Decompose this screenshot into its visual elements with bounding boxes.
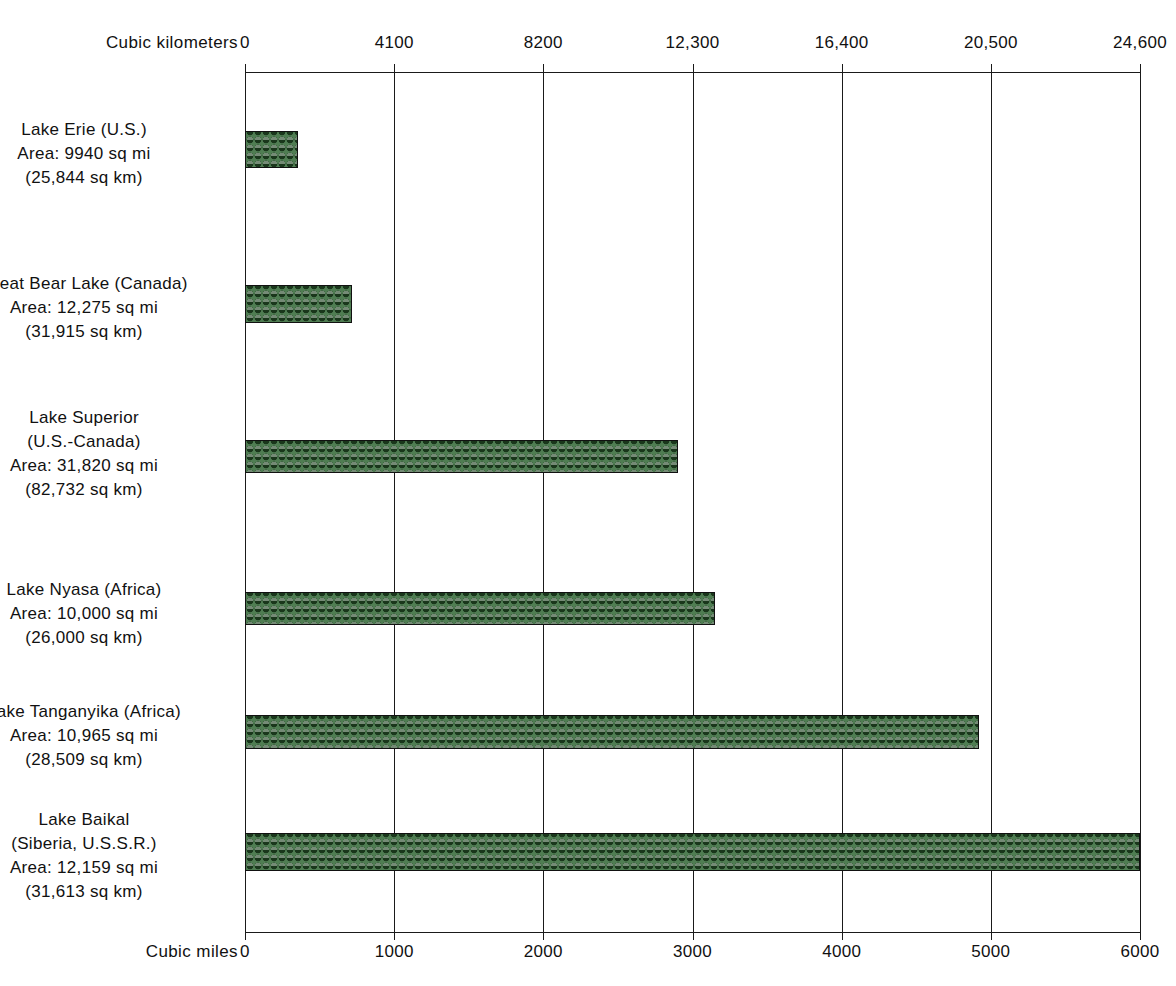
category-label-line: Area: 31,820 sq mi (0, 454, 234, 478)
top-axis-label: Cubic kilometers (106, 33, 238, 53)
bottom-tick-label: 4000 (822, 942, 861, 962)
plot-area (245, 72, 1140, 932)
bar-lake-erie (245, 131, 298, 168)
gridline (543, 64, 544, 940)
category-label-lake-nyasa: Lake Nyasa (Africa)Area: 10,000 sq mi(26… (0, 578, 234, 650)
category-label-line: (U.S.-Canada) (0, 430, 234, 454)
bottom-tick-label: 3000 (673, 942, 712, 962)
category-label-line: Area: 9940 sq mi (0, 142, 234, 166)
category-label-lake-erie: Lake Erie (U.S.)Area: 9940 sq mi(25,844 … (0, 118, 234, 190)
bottom-tick-label: 5000 (971, 942, 1010, 962)
category-label-line: Lake Nyasa (Africa) (0, 578, 234, 602)
gridline (991, 64, 992, 940)
category-label-line: (Siberia, U.S.S.R.) (0, 832, 234, 856)
top-tick-label: 16,400 (815, 33, 869, 53)
gridline (1140, 64, 1141, 940)
gridline (693, 64, 694, 940)
category-label-line: (26,000 sq km) (0, 626, 234, 650)
category-label-line: Lake Superior (0, 406, 234, 430)
category-label-line: Lake Baikal (0, 808, 234, 832)
bottom-tick-label: 2000 (524, 942, 563, 962)
category-label-line: (25,844 sq km) (0, 166, 234, 190)
category-label-line: (31,915 sq km) (0, 320, 234, 344)
gridline (842, 64, 843, 940)
category-label-great-bear-lake: Great Bear Lake (Canada)Area: 12,275 sq … (0, 272, 234, 344)
bar-lake-superior (245, 440, 678, 473)
category-label-lake-superior: Lake Superior(U.S.-Canada)Area: 31,820 s… (0, 406, 234, 503)
gridline (394, 64, 395, 940)
category-label-lake-baikal: Lake Baikal(Siberia, U.S.S.R.)Area: 12,1… (0, 808, 234, 905)
bottom-axis-label: Cubic miles (146, 942, 238, 962)
category-label-line: Area: 10,000 sq mi (0, 602, 234, 626)
top-tick-label: 8200 (524, 33, 563, 53)
bottom-tick-label: 1000 (375, 942, 414, 962)
bottom-tick-label: 6000 (1120, 942, 1159, 962)
category-label-line: (28,509 sq km) (0, 748, 234, 772)
bar-great-bear-lake (245, 285, 352, 323)
bar-lake-baikal (245, 833, 1140, 871)
bar-lake-tanganyika (245, 715, 979, 749)
category-label-line: (82,732 sq km) (0, 478, 234, 502)
category-label-line: Area: 10,965 sq mi (0, 724, 234, 748)
top-tick-label: 24,600 (1113, 33, 1167, 53)
top-tick-label: 20,500 (964, 33, 1018, 53)
category-label-line: Area: 12,275 sq mi (0, 296, 234, 320)
category-label-line: (31,613 sq km) (0, 880, 234, 904)
top-tick-label: 0 (240, 33, 250, 53)
category-label-line: Area: 12,159 sq mi (0, 856, 234, 880)
category-label-line: Great Bear Lake (Canada) (0, 272, 234, 296)
category-label-line: Lake Erie (U.S.) (0, 118, 234, 142)
category-label-lake-tanganyika: Lake Tanganyika (Africa)Area: 10,965 sq … (0, 700, 234, 772)
lake-volume-bar-chart: Cubic kilometers Cubic miles 04100820012… (0, 0, 1176, 986)
top-tick-label: 12,300 (666, 33, 720, 53)
gridline (245, 64, 246, 940)
top-tick-label: 4100 (375, 33, 414, 53)
bottom-tick-label: 0 (240, 942, 250, 962)
bar-lake-nyasa (245, 592, 715, 625)
category-label-line: Lake Tanganyika (Africa) (0, 700, 234, 724)
